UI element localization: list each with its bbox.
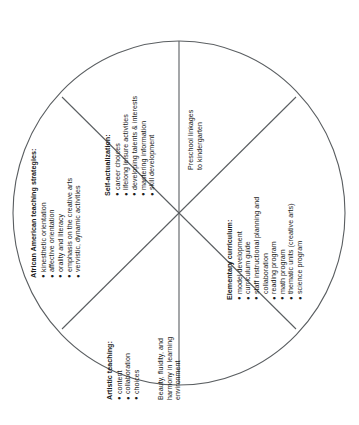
list-item: ●kinesthetic orientation: [40, 149, 49, 278]
list-item-label: thematic units (creative arts): [287, 203, 295, 294]
sector-heading: Elementary curriculum:: [226, 197, 235, 300]
sector-text-block: Preschool linkages to kindergarten: [187, 110, 204, 170]
list-item-label: reading program: [270, 241, 278, 294]
list-item-label: choices: [133, 370, 141, 394]
sector-text-line: Beauty, fluidity, and: [157, 337, 166, 400]
sector-text-line: harmony in learning: [166, 337, 175, 400]
list-item: ●vervistic, dynamic activities: [74, 149, 83, 278]
list-item-label: collaboration: [124, 353, 132, 394]
bullet-icon: ●: [66, 272, 73, 278]
bullet-icon: ●: [125, 394, 132, 400]
list-item-label: skill development: [148, 135, 156, 190]
list-item-label: orality and literacy: [57, 214, 65, 272]
sector-item-list: ●kinesthetic orientation ●affective orie…: [40, 149, 83, 278]
list-item: ●curriculum guide: [244, 197, 253, 300]
list-item: ●skill development: [148, 96, 157, 196]
bullet-icon: ●: [40, 272, 47, 278]
bullet-icon: ●: [114, 190, 121, 196]
list-item: ●content: [116, 341, 125, 400]
list-item: ●orality and literacy: [57, 149, 66, 278]
bullet-icon: ●: [116, 394, 123, 400]
list-item: ●affective orientation: [48, 149, 57, 278]
bullet-icon: ●: [288, 294, 295, 300]
sector-african-american-teaching-strategies: African American teaching strategies: ●k…: [30, 149, 83, 278]
list-item-label: science program: [296, 241, 304, 294]
list-item: ●developing talents & interests: [131, 96, 140, 196]
list-item: ●science program: [296, 197, 305, 300]
list-item: ●emphasis on the creative arts: [66, 149, 75, 278]
bullet-icon: ●: [75, 272, 82, 278]
sector-text-block: Beauty, fluidity, and harmony in learnin…: [157, 337, 183, 400]
list-item-label: affective orientation: [48, 210, 56, 272]
list-item-label: vervistic, dynamic activities: [74, 185, 82, 272]
list-item: ●collaboration: [124, 341, 133, 400]
list-item-label: model development: [236, 231, 244, 294]
bullet-icon: ●: [253, 294, 260, 300]
bullet-icon: ●: [149, 190, 156, 196]
list-item: ●choices: [133, 341, 142, 400]
sector-heading: African American teaching strategies:: [30, 149, 39, 278]
sector-preschool-linkages: Preschool linkages to kindergarten: [187, 110, 204, 170]
list-item: ●thematic units (creative arts): [287, 197, 296, 300]
list-item: ●collaboration: [262, 197, 271, 300]
list-item-label: developing talents & interests: [131, 96, 139, 190]
bullet-icon: ●: [131, 190, 138, 196]
sector-text-line: Preschool linkages: [187, 110, 196, 170]
sector-item-list: ●model development ●curriculum guide ●st…: [236, 197, 305, 300]
list-item-label: collaboration: [262, 253, 270, 294]
sector-item-list: ●career choices ●lifelong leisure activi…: [114, 96, 157, 196]
list-item: ●career choices: [114, 96, 123, 196]
sector-heading: Self-actualization:: [104, 96, 113, 196]
list-item-label: kinesthetic orientation: [40, 202, 48, 272]
sector-text-line: environment: [174, 337, 183, 400]
sector-heading: Artistic teaching:: [106, 341, 115, 400]
bullet-icon: ●: [123, 190, 130, 196]
sector-text-line: to kindergarten: [196, 110, 205, 170]
list-item-label: emphasis on the creative arts: [66, 178, 74, 272]
list-item: ●mastering information: [140, 96, 149, 196]
sector-elementary-curriculum: Elementary curriculum: ●model developmen…: [226, 197, 305, 300]
list-item-label: curriculum guide: [244, 241, 252, 294]
list-item-label: lifelong leisure activities: [122, 114, 130, 190]
list-item: ●lifelong leisure activities: [122, 96, 131, 196]
bullet-icon: ●: [236, 294, 243, 300]
sector-item-list: ●content ●collaboration ●choices: [116, 341, 142, 400]
sector-beauty-fluidity-harmony: Beauty, fluidity, and harmony in learnin…: [157, 337, 183, 400]
wheel-diagram: African American teaching strategies: ●k…: [0, 0, 359, 425]
sector-self-actualization: Self-actualization: ●career choices ●lif…: [104, 96, 157, 196]
bullet-icon: ●: [271, 294, 278, 300]
bullet-icon: ●: [140, 190, 147, 196]
bullet-icon: ●: [297, 294, 304, 300]
bullet-icon: ●: [49, 272, 56, 278]
list-item-label: mastering information: [140, 121, 148, 190]
list-item-label: content: [116, 370, 124, 394]
bullet-icon: ●: [57, 272, 64, 278]
list-item: ●reading program: [270, 197, 279, 300]
sector-artistic-teaching: Artistic teaching: ●content ●collaborati…: [106, 341, 142, 400]
list-item: ●math program: [279, 197, 288, 300]
list-item-label: staff instructional planning and: [253, 197, 261, 294]
bullet-icon: ●: [133, 394, 140, 400]
bullet-icon: ●: [245, 294, 252, 300]
list-item: ●model development: [236, 197, 245, 300]
list-item-label: career choices: [114, 143, 122, 190]
bullet-icon: ●: [279, 294, 286, 300]
list-item-label: math program: [279, 249, 287, 294]
list-item: ●staff instructional planning and: [253, 197, 262, 300]
